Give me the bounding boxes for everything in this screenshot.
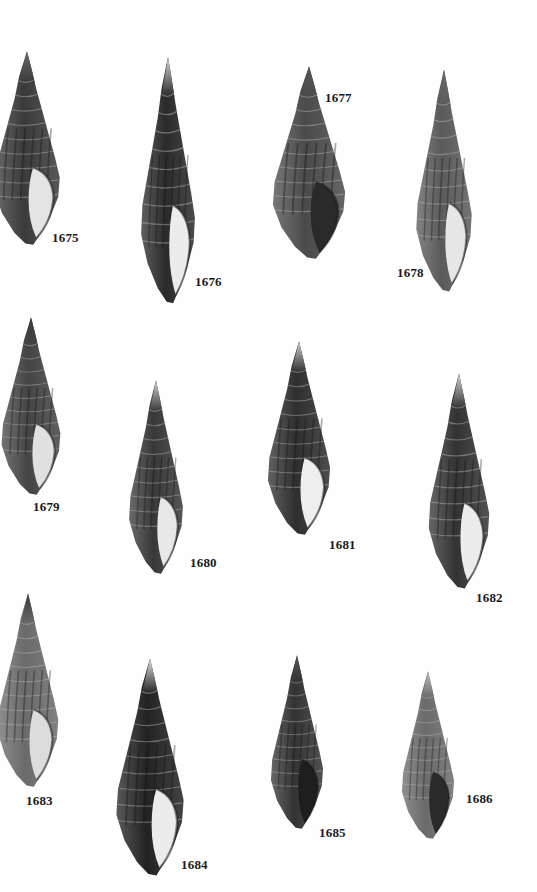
specimen-number-label: 1685 [319, 825, 346, 841]
specimen-number-label: 1681 [329, 537, 356, 553]
shell-icon [0, 316, 66, 496]
shell-icon [0, 592, 64, 788]
specimen-number-label: 1675 [52, 230, 79, 246]
shell-icon [423, 372, 495, 590]
shell-specimen-1675 [0, 50, 66, 246]
shell-icon [0, 50, 66, 246]
specimen-number-label: 1677 [325, 90, 352, 106]
shell-specimen-1686 [397, 670, 459, 840]
specimen-number-label: 1676 [195, 274, 222, 290]
shell-icon [124, 379, 188, 575]
shell-specimen-1678 [411, 68, 477, 293]
shell-specimen-1679 [0, 316, 66, 496]
specimen-number-label: 1678 [397, 265, 424, 281]
shell-specimen-1676 [136, 55, 200, 305]
specimen-number-label: 1682 [476, 590, 503, 606]
shell-specimen-1680 [124, 379, 188, 575]
shell-specimen-1685 [266, 654, 328, 830]
specimen-number-label: 1679 [33, 499, 60, 515]
specimen-plate: 1675167616771678167916801681168216831684… [0, 0, 537, 892]
shell-specimen-1684 [110, 657, 190, 877]
shell-icon [110, 657, 190, 877]
specimen-number-label: 1683 [26, 793, 53, 809]
shell-icon [262, 340, 336, 536]
specimen-number-label: 1686 [466, 791, 493, 807]
shell-specimen-1682 [423, 372, 495, 590]
specimen-number-label: 1684 [181, 857, 208, 873]
shell-icon [411, 68, 477, 293]
shell-icon [266, 654, 328, 830]
specimen-number-label: 1680 [190, 555, 217, 571]
shell-specimen-1681 [262, 340, 336, 536]
shell-icon [397, 670, 459, 840]
shell-icon [136, 55, 200, 305]
shell-specimen-1683 [0, 592, 64, 788]
